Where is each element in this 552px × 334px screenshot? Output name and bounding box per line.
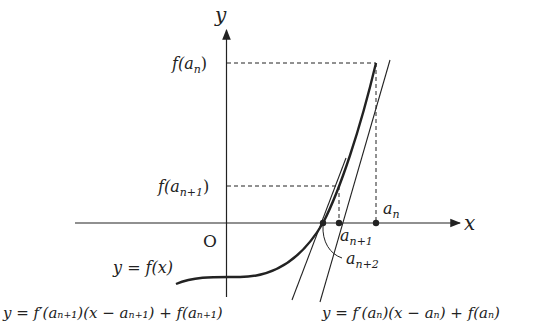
tick-f-an: f(an)	[171, 54, 207, 76]
label-an2: an+2	[346, 249, 379, 271]
x-axis-label: x	[464, 211, 475, 235]
tangent-eq-an: y = f′(aₙ)(x − aₙ) + f(aₙ)	[321, 304, 500, 322]
point-an	[373, 220, 379, 226]
origin-label: O	[203, 231, 217, 251]
newton-method-diagram: y x O f(an) f(an+1) an an+1 an+2 y = f(x…	[0, 0, 552, 334]
tick-f-an1: f(an+1)	[157, 177, 209, 199]
label-an: an	[383, 199, 400, 221]
y-axis-label: y	[214, 3, 227, 27]
tangent-eq-an1: y = f′(aₙ₊₁)(x − aₙ₊₁) + f(aₙ₊₁)	[2, 304, 223, 322]
point-an2	[320, 220, 326, 226]
curve-label: y = f(x)	[112, 258, 173, 277]
label-an1: an+1	[340, 226, 373, 248]
